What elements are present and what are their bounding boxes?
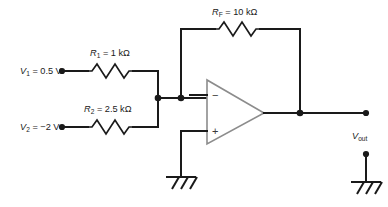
resistor-r1-symbol	[88, 64, 133, 78]
resistor-rf-symbol	[215, 22, 260, 36]
v2-label: V2 = −2 V	[20, 122, 60, 133]
r1-label: R1 = 1 kΩ	[90, 48, 130, 59]
rf-label: RF = 10 kΩ	[212, 7, 258, 18]
noninverting-ground-wire	[181, 131, 190, 177]
op-amp[interactable]: − +	[190, 80, 300, 144]
ground-hatch-left-2	[181, 177, 188, 189]
ground-hatch-left-1	[172, 177, 179, 189]
schematic-canvas: − +	[0, 0, 388, 207]
ground-hatch-right-2	[366, 182, 373, 194]
noninverting-ground-branch	[166, 131, 197, 189]
r2-to-summing-node-wire	[133, 98, 158, 127]
noninverting-input-sign: +	[212, 125, 218, 137]
ground-hatch-right-1	[357, 182, 364, 194]
v1-label: V1 = 0.5 V	[20, 66, 63, 77]
vout-terminal[interactable]	[363, 110, 369, 116]
feedback-right-wire	[260, 29, 300, 113]
r1-to-summing-node-wire	[133, 71, 158, 98]
junction-dot-inputs	[155, 95, 162, 102]
r2-label: R2 = 2.5 kΩ	[84, 104, 132, 115]
vout-label: Vout	[352, 131, 367, 142]
resistor-r2-symbol	[88, 120, 133, 134]
inverting-input-sign: −	[212, 89, 218, 101]
input-branch-1	[59, 64, 158, 98]
ground-symbol-left	[166, 177, 197, 189]
circuit-diagram: − +	[0, 0, 388, 207]
output-branch	[297, 110, 369, 117]
ground-hatch-right-3	[375, 182, 382, 194]
output-ground-branch	[351, 151, 382, 194]
ground-hatch-left-3	[190, 177, 197, 189]
ground-symbol-right	[351, 182, 382, 194]
